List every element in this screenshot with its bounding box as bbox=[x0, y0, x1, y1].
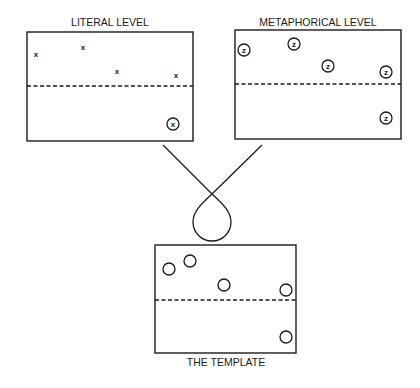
metaphorical-level-box bbox=[235, 30, 401, 139]
connector-loop bbox=[193, 194, 231, 241]
item-symbol: x bbox=[81, 43, 86, 52]
item-symbol: z bbox=[292, 40, 296, 49]
metaphorical-item-1: z bbox=[238, 44, 250, 56]
item-ring bbox=[280, 284, 292, 296]
metaphorical-item-2: z bbox=[288, 38, 300, 50]
item-symbol: z bbox=[242, 46, 246, 55]
literal-item-5: x bbox=[167, 118, 179, 130]
metaphorical-level-title: METAPHORICAL LEVEL bbox=[259, 16, 376, 28]
literal-item-4: x bbox=[174, 71, 179, 80]
metaphorical-item-5: z bbox=[380, 112, 392, 124]
item-ring bbox=[163, 263, 175, 275]
literal-level-title: LITERAL LEVEL bbox=[71, 16, 149, 28]
literal-level-panel: LITERAL LEVEL xxxxx bbox=[27, 16, 193, 141]
literal-level-box bbox=[27, 32, 193, 141]
item-symbol: x bbox=[171, 120, 176, 129]
item-symbol: z bbox=[326, 62, 330, 71]
literal-item-2: x bbox=[81, 43, 86, 52]
merge-connector bbox=[163, 145, 262, 241]
diagram-canvas: LITERAL LEVEL xxxxx METAPHORICAL LEVEL z… bbox=[0, 0, 420, 388]
metaphorical-item-4: z bbox=[380, 66, 392, 78]
template-item-3 bbox=[218, 279, 230, 291]
template-item-2 bbox=[184, 255, 196, 267]
item-symbol: z bbox=[384, 68, 388, 77]
template-box bbox=[155, 245, 296, 353]
item-symbol: x bbox=[115, 67, 120, 76]
template-item-5 bbox=[280, 331, 292, 343]
template-item-4 bbox=[280, 284, 292, 296]
template-item-1 bbox=[163, 263, 175, 275]
literal-item-1: x bbox=[34, 50, 39, 59]
item-ring bbox=[218, 279, 230, 291]
item-ring bbox=[184, 255, 196, 267]
item-symbol: x bbox=[174, 71, 179, 80]
template-title: THE TEMPLATE bbox=[187, 356, 265, 368]
connector-line-right bbox=[212, 145, 262, 194]
item-symbol: z bbox=[384, 114, 388, 123]
item-symbol: x bbox=[34, 50, 39, 59]
metaphorical-level-panel: METAPHORICAL LEVEL zzzzz bbox=[235, 16, 401, 139]
metaphorical-item-3: z bbox=[322, 60, 334, 72]
literal-item-3: x bbox=[115, 67, 120, 76]
item-ring bbox=[280, 331, 292, 343]
connector-line-left bbox=[163, 145, 212, 194]
template-panel: THE TEMPLATE bbox=[155, 245, 296, 368]
